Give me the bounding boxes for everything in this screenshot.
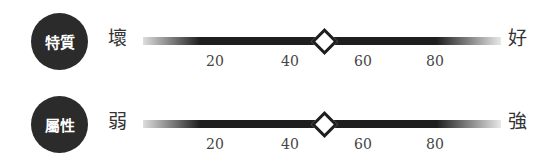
diamond-marker-icon (311, 111, 338, 138)
scale-right-label: 強 (508, 109, 527, 133)
scale-row-attribute: 屬性 弱 20 40 60 80 強 (0, 83, 542, 166)
tick-label: 80 (426, 136, 444, 152)
scale-row-trait: 特質 壞 20 40 60 80 好 (0, 0, 542, 83)
scale-right-label: 好 (508, 26, 527, 50)
attribute-badge: 屬性 (31, 96, 88, 153)
tick-label: 80 (426, 53, 444, 69)
tick-label: 60 (354, 136, 372, 152)
scale-left-label: 壞 (108, 26, 127, 50)
diamond-marker-icon (311, 28, 338, 55)
tick-label: 40 (281, 136, 299, 152)
tick-label: 20 (206, 136, 224, 152)
trait-badge: 特質 (31, 13, 88, 70)
tick-label: 40 (281, 53, 299, 69)
scale-left-label: 弱 (108, 109, 127, 133)
tick-label: 20 (206, 53, 224, 69)
tick-label: 60 (354, 53, 372, 69)
